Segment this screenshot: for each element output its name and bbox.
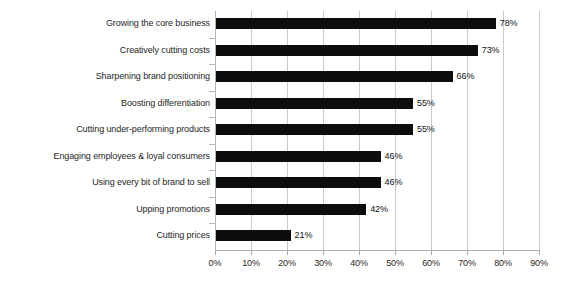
x-axis-tick-label: 10% xyxy=(231,256,271,270)
bar xyxy=(215,71,453,82)
y-axis-tick xyxy=(209,223,215,224)
bar xyxy=(215,151,381,162)
bar-value-label: 73% xyxy=(482,42,500,58)
category-label: Creatively cutting costs xyxy=(10,43,210,57)
x-axis-tick-label: 30% xyxy=(303,256,343,270)
y-axis-tick xyxy=(209,144,215,145)
bar-value-label: 55% xyxy=(417,121,435,137)
x-axis-tick-label: 60% xyxy=(411,256,451,270)
category-label: Boosting differentiation xyxy=(10,96,210,110)
bar xyxy=(215,124,413,135)
x-axis-line xyxy=(215,250,540,251)
bar-value-label: 66% xyxy=(457,68,475,84)
x-axis-tick xyxy=(539,251,540,255)
x-axis-tick xyxy=(395,251,396,255)
bar-row: 73% xyxy=(215,38,539,65)
bar xyxy=(215,204,366,215)
y-axis-tick xyxy=(209,170,215,171)
gridline-90pct xyxy=(539,11,540,250)
y-axis-line xyxy=(215,11,216,250)
bar-value-label: 78% xyxy=(500,15,518,31)
bar xyxy=(215,230,291,241)
x-axis-tick xyxy=(467,251,468,255)
x-axis-tick-label: 80% xyxy=(483,256,523,270)
category-label: Upping promotions xyxy=(10,202,210,216)
x-axis-tick xyxy=(503,251,504,255)
x-axis-tick-label: 70% xyxy=(447,256,487,270)
x-axis-tick-label: 40% xyxy=(339,256,379,270)
x-axis-tick-label: 90% xyxy=(519,256,559,270)
bar-row: 55% xyxy=(215,91,539,118)
category-axis-labels: Growing the core businessCreatively cutt… xyxy=(8,11,210,250)
x-axis-tick xyxy=(431,251,432,255)
bar xyxy=(215,177,381,188)
bar-value-label: 55% xyxy=(417,95,435,111)
bar-value-label: 46% xyxy=(385,174,403,190)
bar-value-label: 42% xyxy=(370,201,388,217)
x-axis-tick-label: 20% xyxy=(267,256,307,270)
bar-value-label: 21% xyxy=(295,227,313,243)
category-label: Sharpening brand positioning xyxy=(10,69,210,83)
x-axis-tick xyxy=(359,251,360,255)
x-axis-tick xyxy=(287,251,288,255)
bar-row: 46% xyxy=(215,144,539,171)
x-axis-tick xyxy=(323,251,324,255)
bar-row: 66% xyxy=(215,64,539,91)
bar xyxy=(215,98,413,109)
bar xyxy=(215,45,478,56)
x-axis-tick-label: 50% xyxy=(375,256,415,270)
category-label: Cutting prices xyxy=(10,228,210,242)
category-label: Cutting under-performing products xyxy=(10,122,210,136)
category-label: Using every bit of brand to sell xyxy=(10,175,210,189)
y-axis-tick xyxy=(209,117,215,118)
category-label: Growing the core business xyxy=(10,16,210,30)
bar-row: 21% xyxy=(215,223,539,250)
bar-row: 55% xyxy=(215,117,539,144)
bar-row: 46% xyxy=(215,170,539,197)
bar-row: 42% xyxy=(215,197,539,224)
x-axis-tick xyxy=(215,251,216,255)
category-label: Engaging employees & loyal consumers xyxy=(10,149,210,163)
x-axis-tick-label: 0% xyxy=(195,256,235,270)
bar xyxy=(215,18,496,29)
bar-value-label: 46% xyxy=(385,148,403,164)
y-axis-tick xyxy=(209,197,215,198)
bar-row: 78% xyxy=(215,11,539,38)
value-axis-labels: 0%10%20%30%40%50%60%70%80%90% xyxy=(215,256,545,272)
horizontal-bar-chart: 78%73%66%55%55%46%46%42%21% Growing the … xyxy=(0,0,572,286)
y-axis-tick xyxy=(209,38,215,39)
plot-area: 78%73%66%55%55%46%46%42%21% xyxy=(215,11,539,250)
y-axis-tick xyxy=(209,91,215,92)
y-axis-tick xyxy=(209,64,215,65)
x-axis-tick xyxy=(251,251,252,255)
